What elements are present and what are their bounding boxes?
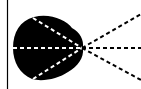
diverging-ray-2: [82, 48, 141, 80]
diverging-ray-0: [82, 14, 141, 48]
diverging-rays: [82, 14, 141, 80]
optics-diagram: [0, 0, 141, 89]
